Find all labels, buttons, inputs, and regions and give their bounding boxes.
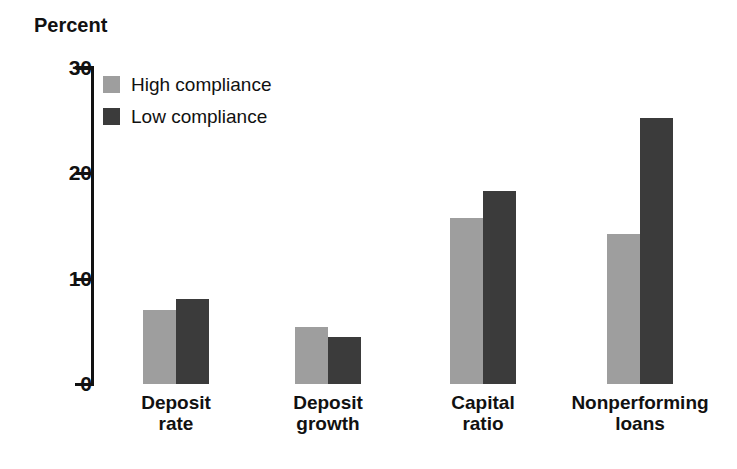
legend-item-high-compliance: High compliance [103, 70, 271, 98]
legend-swatch-icon-low [103, 108, 120, 125]
bar [640, 118, 673, 384]
bar-chart: Percent 0102030 High compliance Low comp… [0, 0, 737, 469]
bar [450, 218, 483, 384]
bar [176, 299, 209, 384]
bar [295, 327, 328, 384]
y-axis-line [91, 66, 94, 386]
y-tick-label: 30 [36, 57, 92, 78]
y-tick-label: 20 [36, 162, 92, 183]
legend-label-low: Low compliance [131, 107, 267, 126]
bar [328, 337, 361, 384]
y-tick-label: 0 [36, 373, 92, 394]
legend-label-high: High compliance [131, 75, 271, 94]
legend-swatch-icon-high [103, 76, 120, 93]
legend-item-low-compliance: Low compliance [103, 102, 271, 130]
bar [483, 191, 516, 384]
bar [143, 310, 176, 384]
chart-legend: High compliance Low compliance [103, 70, 271, 134]
x-axis-label: Nonperformingloans [540, 392, 737, 435]
x-axis-label-line: Nonperforming [540, 392, 737, 413]
y-axis-title: Percent [34, 14, 107, 37]
x-axis-label-line: loans [540, 413, 737, 434]
y-tick-label: 10 [36, 268, 92, 289]
bar [607, 234, 640, 384]
